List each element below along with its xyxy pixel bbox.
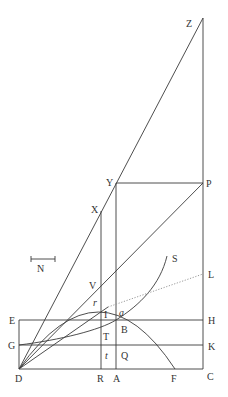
label-X: X (91, 204, 99, 215)
label-V: V (89, 280, 97, 291)
geometry-diagram: Z Y P X N S V L r a I E H B T G K t Q D … (0, 0, 228, 397)
label-a: a (119, 307, 124, 318)
label-t: t (105, 350, 108, 361)
label-E: E (9, 315, 15, 326)
label-F: F (171, 373, 177, 384)
label-r: r (93, 297, 97, 308)
label-R: R (97, 373, 104, 384)
label-T: T (103, 331, 109, 342)
line-DZ (19, 18, 203, 369)
label-C: C (207, 371, 214, 382)
line-Dr (19, 307, 108, 369)
label-A: A (113, 373, 121, 384)
label-G: G (8, 340, 15, 351)
label-I: I (104, 309, 107, 320)
curve-parabola-DaF (19, 312, 175, 369)
label-P: P (206, 178, 212, 189)
line-rL-dotted (108, 274, 203, 307)
label-B: B (121, 324, 128, 335)
label-Z: Z (186, 18, 192, 29)
label-D: D (15, 373, 22, 384)
label-S: S (172, 253, 178, 264)
label-Q: Q (121, 350, 129, 361)
label-H: H (208, 315, 215, 326)
label-Y: Y (106, 177, 113, 188)
label-K: K (208, 341, 216, 352)
label-L: L (208, 269, 214, 280)
label-N: N (37, 263, 44, 274)
